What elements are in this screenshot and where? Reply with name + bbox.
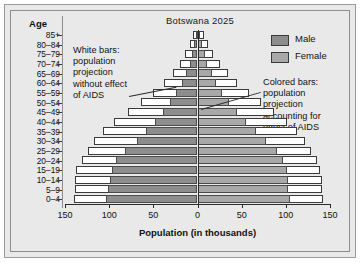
- pyramid-bar: [198, 147, 278, 155]
- pyramid-bar: [198, 127, 256, 135]
- pyramid-bar: [170, 98, 197, 106]
- legend-label-female: Female: [295, 50, 327, 61]
- y-axis-tick: [57, 161, 62, 162]
- x-axis-tick: [286, 204, 287, 208]
- pyramid-bar: [155, 118, 197, 126]
- legend-swatch-male-icon: [271, 35, 289, 46]
- pyramid-bar: [198, 89, 223, 97]
- figure-outer-frame: Botswana 2025 Age 85+80–8475–7970–7465–6…: [4, 4, 356, 258]
- y-axis-tick: [57, 180, 62, 181]
- age-column-header: Age: [16, 18, 60, 29]
- x-axis-tick-label: 150: [310, 210, 350, 220]
- y-axis-tick: [57, 64, 62, 65]
- x-axis-tick-label: 50: [222, 210, 262, 220]
- pyramid-bar: [106, 195, 198, 203]
- y-axis-tick: [57, 54, 62, 55]
- pyramid-bar: [108, 185, 197, 193]
- pyramid-bar: [163, 108, 197, 116]
- pyramid-bar: [198, 166, 287, 174]
- pyramid-bar: [112, 166, 198, 174]
- pyramid-bar: [116, 156, 197, 164]
- pyramid-bar: [198, 156, 284, 164]
- pyramid-bar: [198, 185, 289, 193]
- pyramid-bar: [198, 79, 217, 87]
- y-axis-tick: [57, 199, 62, 200]
- y-axis-tick: [57, 103, 62, 104]
- pyramid-bar: [182, 79, 198, 87]
- y-axis-tick: [57, 141, 62, 142]
- y-axis-tick: [57, 170, 62, 171]
- y-axis-tick: [57, 151, 62, 152]
- y-axis-tick: [57, 112, 62, 113]
- x-axis-tick-label: 100: [266, 210, 306, 220]
- y-axis-tick: [57, 190, 62, 191]
- legend-swatch-female-icon: [271, 52, 289, 63]
- x-axis-title: Population (in thousands): [65, 227, 330, 238]
- pyramid-bar: [198, 137, 267, 145]
- y-axis-tick: [57, 83, 62, 84]
- pyramid-bar: [190, 60, 198, 68]
- pyramid-bar: [198, 118, 247, 126]
- y-axis-tick: [57, 35, 62, 36]
- pyramid-bar: [146, 127, 197, 135]
- pyramid-bar: [137, 137, 198, 145]
- label-divider: [62, 16, 63, 208]
- y-axis-tick: [57, 74, 62, 75]
- x-axis-tick-label: 150: [45, 210, 85, 220]
- x-axis-tick: [109, 204, 110, 208]
- legend-label-male: Male: [295, 33, 316, 44]
- y-axis-tick: [57, 45, 62, 46]
- x-axis-tick: [153, 204, 154, 208]
- x-axis-tick: [330, 204, 331, 208]
- pyramid-bar: [176, 89, 197, 97]
- age-label-column: 85+80–8475–7970–7465–6960–6455–5950–5445…: [16, 31, 60, 203]
- y-axis-tick: [57, 132, 62, 133]
- age-label: 0–4: [16, 195, 60, 205]
- pyramid-bar: [198, 69, 212, 77]
- x-axis-tick-label: 0: [178, 210, 218, 220]
- pyramid-bar: [186, 69, 197, 77]
- zero-axis-line: [198, 30, 200, 204]
- pyramid-bar: [110, 176, 197, 184]
- x-axis-tick-label: 50: [133, 210, 173, 220]
- pyramid-bar: [198, 176, 288, 184]
- x-axis-tick-label: 100: [89, 210, 129, 220]
- y-axis-tick: [57, 122, 62, 123]
- x-axis-tick: [198, 204, 199, 208]
- pyramid-bar: [198, 195, 291, 203]
- y-axis-tick: [57, 93, 62, 94]
- x-axis-tick: [65, 204, 66, 208]
- page-title: Botswana 2025: [125, 15, 275, 26]
- pyramid-bar: [125, 147, 197, 155]
- x-axis-tick: [242, 204, 243, 208]
